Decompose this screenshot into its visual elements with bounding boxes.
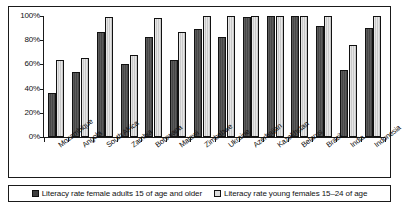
x-axis-tick-mark	[93, 138, 94, 142]
y-axis-tick-mark	[40, 64, 44, 65]
bar-group	[215, 16, 239, 137]
bar	[316, 26, 324, 137]
x-axis-tick-mark	[44, 138, 45, 142]
x-axis-tick-mark	[312, 138, 313, 142]
x-axis-tick-mark	[263, 138, 264, 142]
bar	[340, 70, 348, 137]
x-axis-tick-mark	[385, 138, 386, 142]
bar-group	[239, 16, 263, 137]
x-axis-tick-mark	[288, 138, 289, 142]
legend-item-adult-literacy: Literacy rate female adults 15 of age an…	[32, 189, 202, 198]
y-axis-tick-label: 100%	[10, 12, 40, 20]
dark-gray-swatch-icon	[32, 190, 39, 197]
x-axis-tick-mark	[190, 138, 191, 142]
y-axis-tick-label: 40%	[10, 85, 40, 93]
y-axis-tick-mark	[40, 89, 44, 90]
x-axis-tick-mark	[141, 138, 142, 142]
x-axis-tick-mark	[336, 138, 337, 142]
x-axis-category-labels: MozambiqueAngolaSouth AfricaZambiaBotswa…	[44, 143, 385, 181]
bar-group	[361, 16, 385, 137]
legend-label-adult-literacy: Literacy rate female adults 15 of age an…	[42, 189, 202, 198]
bar	[97, 32, 105, 137]
y-axis-tick-mark	[40, 16, 44, 17]
legend-label-youth-literacy: Literacy rate young females 15–24 of age	[224, 189, 367, 198]
light-gray-swatch-icon	[214, 190, 221, 197]
bar	[56, 60, 64, 137]
bar	[291, 16, 299, 137]
y-axis-tick-label: 0%	[10, 133, 40, 141]
bar-group	[288, 16, 312, 137]
bar	[373, 16, 381, 137]
x-axis-tick-mark	[361, 138, 362, 142]
bar	[365, 28, 373, 137]
bar	[194, 29, 202, 137]
bar	[276, 16, 284, 137]
bars-plot-area	[44, 16, 385, 137]
bar	[203, 16, 211, 137]
y-axis-tick-label: 80%	[10, 36, 40, 44]
x-axis-tick-mark	[215, 138, 216, 142]
y-axis-tick-mark	[40, 113, 44, 114]
bar	[218, 37, 226, 137]
x-axis-tick-mark	[68, 138, 69, 142]
bar	[324, 16, 332, 137]
x-axis-tick-mark	[166, 138, 167, 142]
y-axis-tick-label: 20%	[10, 109, 40, 117]
bar	[243, 17, 251, 137]
bar-group	[141, 16, 165, 137]
y-axis-tick-mark	[40, 40, 44, 41]
bar	[178, 32, 186, 137]
bar	[105, 17, 113, 137]
bar-group	[166, 16, 190, 137]
bar-group	[93, 16, 117, 137]
bar	[267, 16, 275, 137]
bar	[145, 37, 153, 137]
bar-group	[312, 16, 336, 137]
chart-legend: Literacy rate female adults 15 of age an…	[8, 185, 391, 202]
bar	[251, 16, 259, 137]
y-axis-tick-label: 60%	[10, 60, 40, 68]
bar	[349, 45, 357, 137]
bar	[227, 16, 235, 137]
bar-group	[336, 16, 360, 137]
bar-group	[44, 16, 68, 137]
x-axis-tick-mark	[239, 138, 240, 142]
bar-group	[263, 16, 287, 137]
bar-group	[190, 16, 214, 137]
bar-group	[117, 16, 141, 137]
x-axis-tick-mark	[117, 138, 118, 142]
bar	[154, 18, 162, 137]
legend-item-youth-literacy: Literacy rate young females 15–24 of age	[214, 189, 367, 198]
bar	[48, 93, 56, 137]
y-axis-tick-labels: 0%20%40%60%80%100%	[10, 12, 40, 138]
